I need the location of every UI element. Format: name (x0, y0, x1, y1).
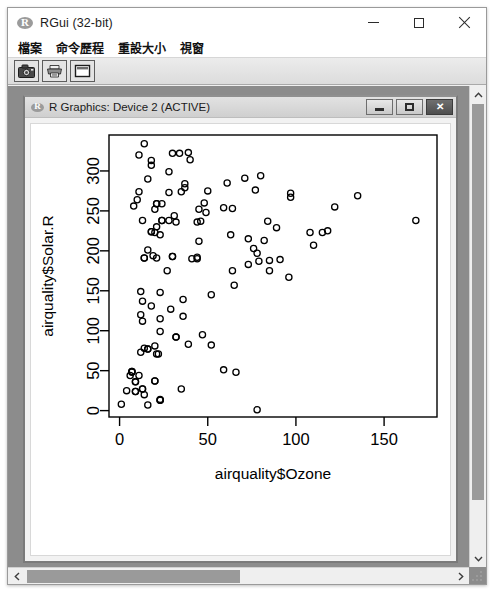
menu-file[interactable]: 檔案 (18, 39, 42, 56)
device-restore-button[interactable] (396, 99, 423, 115)
maximize-icon (414, 18, 424, 28)
window-button[interactable] (70, 60, 95, 82)
vertical-scrollbar-thumb[interactable] (472, 104, 484, 500)
window-icon (74, 64, 91, 78)
device-window-title: R Graphics: Device 2 (ACTIVE) (49, 101, 210, 113)
minimize-icon (368, 22, 379, 23)
horizontal-scrollbar-track[interactable] (25, 568, 452, 585)
minimize-icon (375, 108, 384, 111)
y-tick-label: 300 (84, 157, 102, 185)
minimize-button[interactable] (351, 8, 396, 37)
scroll-up-button[interactable] (470, 86, 487, 103)
menu-resize[interactable]: 重設大小 (118, 39, 166, 56)
y-axis-label: airquality$Solar.R (39, 215, 56, 336)
scroll-down-button[interactable] (470, 550, 487, 567)
vertical-scrollbar[interactable] (469, 86, 486, 567)
y-tick-label: 150 (84, 277, 102, 305)
rgui-main-window: R RGui (32-bit) 檔案 命令歷程 重設大小 視窗 (7, 7, 487, 585)
menu-bar: 檔案 命令歷程 重設大小 視窗 (8, 37, 486, 58)
copy-to-clipboard-button[interactable] (14, 60, 39, 82)
chevron-right-icon (458, 572, 464, 581)
device-title-bar: R R Graphics: Device 2 (ACTIVE) ✕ (25, 97, 456, 118)
scroll-left-button[interactable] (8, 568, 25, 585)
scatter-plot: 050100150 050100150200250300 airquality$… (31, 124, 444, 548)
printer-icon (46, 64, 63, 78)
device-window-controls: ✕ (366, 99, 453, 115)
r-logo-icon: R (31, 101, 44, 114)
close-icon (458, 17, 470, 29)
x-tick-label: 100 (282, 430, 310, 448)
restore-icon (405, 103, 414, 111)
close-icon: ✕ (436, 102, 444, 112)
chevron-down-icon (474, 556, 483, 562)
y-tick-label: 200 (84, 237, 102, 265)
window-controls (351, 8, 486, 37)
x-tick-label: 50 (199, 430, 217, 448)
y-tick-label: 100 (84, 317, 102, 345)
camera-icon (18, 64, 35, 78)
device-close-button[interactable]: ✕ (426, 99, 453, 115)
print-button[interactable] (42, 60, 67, 82)
y-tick-label: 0 (84, 406, 102, 415)
x-tick-label: 150 (370, 430, 398, 448)
x-tick-label: 0 (115, 430, 124, 448)
horizontal-scrollbar[interactable] (8, 567, 469, 584)
menu-history[interactable]: 命令歷程 (56, 39, 104, 56)
horizontal-scrollbar-thumb[interactable] (27, 570, 240, 583)
toolbar (8, 58, 486, 85)
close-button[interactable] (441, 8, 486, 37)
device-minimize-button[interactable] (366, 99, 393, 115)
mdi-client-area: R R Graphics: Device 2 (ACTIVE) ✕ (8, 86, 486, 584)
title-bar: R RGui (32-bit) (8, 8, 486, 37)
resize-grip[interactable] (470, 568, 485, 583)
r-logo-icon: R (17, 15, 33, 31)
chevron-left-icon (14, 572, 20, 581)
plot-canvas: 050100150 050100150200250300 airquality$… (30, 123, 451, 556)
window-title: RGui (32-bit) (40, 16, 113, 30)
y-tick-label: 250 (84, 197, 102, 225)
menu-windows[interactable]: 視窗 (180, 39, 204, 56)
y-tick-label: 50 (84, 361, 102, 379)
scroll-right-button[interactable] (452, 568, 469, 585)
resize-grip-icon (470, 568, 485, 583)
maximize-button[interactable] (396, 8, 441, 37)
x-axis-label: airquality$Ozone (215, 465, 331, 482)
graphics-device-window: R R Graphics: Device 2 (ACTIVE) ✕ (23, 95, 458, 563)
chevron-up-icon (474, 92, 483, 98)
